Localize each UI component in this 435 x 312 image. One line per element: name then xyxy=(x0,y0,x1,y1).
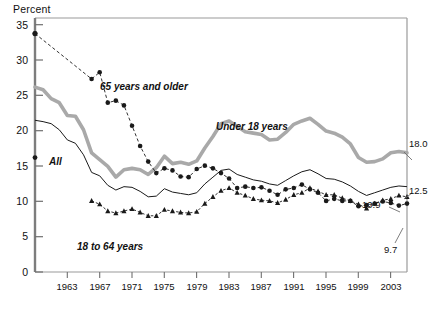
axis-emphasis-marker xyxy=(33,155,38,160)
end-label-under-18-years: 18.0 xyxy=(409,138,428,149)
y-tick-label-20: 20 xyxy=(6,124,28,136)
x-axis-ticks xyxy=(67,272,390,278)
y-tick-label-30: 30 xyxy=(6,54,28,66)
y-tick-label-10: 10 xyxy=(6,195,28,207)
series-under-18-years xyxy=(35,87,407,177)
x-tick-label-1963: 1963 xyxy=(50,281,84,292)
y-tick-label-0: 0 xyxy=(6,266,28,278)
leader-9-7 xyxy=(395,228,403,243)
series-65-years-and-older-first-point xyxy=(32,31,37,36)
series-label-under-18-years: Under 18 years xyxy=(216,121,288,132)
chart-container: Percent xyxy=(0,0,435,312)
y-tick-label-35: 35 xyxy=(6,19,28,31)
x-tick-label-2003: 2003 xyxy=(374,281,408,292)
y-tick-label-15: 15 xyxy=(6,160,28,172)
series-label-65-years-and-older: 65 years and older xyxy=(100,81,188,92)
x-tick-label-1987: 1987 xyxy=(244,281,278,292)
end-label-18-to-64-years: 10.9 xyxy=(362,199,381,210)
x-tick-label-1983: 1983 xyxy=(212,281,246,292)
end-label-65-years-and-older: 9.7 xyxy=(384,244,397,255)
x-tick-label-1979: 1979 xyxy=(180,281,214,292)
x-tick-label-1995: 1995 xyxy=(309,281,343,292)
x-tick-label-1999: 1999 xyxy=(341,281,375,292)
chart-plot-area xyxy=(0,0,435,312)
series-label-18-to-64-years: 18 to 64 years xyxy=(77,241,143,252)
y-tick-label-5: 5 xyxy=(6,230,28,242)
series-label-all: All xyxy=(49,156,62,167)
x-tick-label-1975: 1975 xyxy=(147,281,181,292)
x-tick-label-1967: 1967 xyxy=(83,281,117,292)
end-label-all: 12.5 xyxy=(409,185,428,196)
series-65-years-and-older xyxy=(33,31,410,208)
x-tick-label-1971: 1971 xyxy=(115,281,149,292)
y-tick-label-25: 25 xyxy=(6,89,28,101)
x-tick-label-1991: 1991 xyxy=(277,281,311,292)
